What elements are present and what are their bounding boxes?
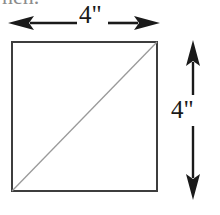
width-dimension-label: 4" bbox=[77, 2, 104, 27]
height-dimension-label: 4" bbox=[170, 95, 195, 124]
geometry-figure: nen. 4" 4" bbox=[0, 0, 220, 215]
